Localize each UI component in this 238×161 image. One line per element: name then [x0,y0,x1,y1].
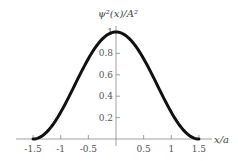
x-tick-label: -1 [56,144,65,154]
y-tick-label: 0.2 [99,113,113,123]
x-axis-label: x/a [214,134,229,145]
x-ticks: -1.5-1-0.50.511.5 [24,135,206,154]
y-tick-label: 0.6 [99,70,114,80]
chart: -1.5-1-0.50.511.5 0.20.40.60.81 ψ²(x)/A²… [0,0,238,161]
y-tick-label: 0.8 [99,48,114,58]
x-tick-label: -1.5 [24,144,42,154]
y-tick-label: 0.4 [99,91,114,101]
x-tick-label: 0.5 [136,144,151,154]
x-tick-label: 1.5 [192,144,207,154]
x-tick-label: -0.5 [80,144,98,154]
y-axis-label: ψ²(x)/A² [98,8,138,19]
x-tick-label: 1 [168,144,174,154]
